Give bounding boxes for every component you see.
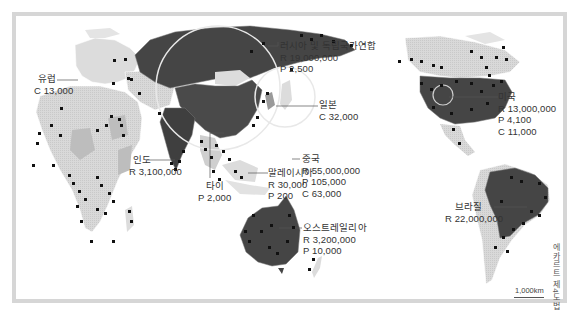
scale-bar xyxy=(514,297,544,298)
projection-note: 에카르트 제4도법 xyxy=(550,243,561,310)
label-japan: 일본 C 32,000 xyxy=(319,99,358,122)
label-europe: 유럽 C 13,000 xyxy=(34,73,73,96)
region-name: 말레이시아 xyxy=(248,167,314,179)
label-thailand: 타이 P 2,000 xyxy=(198,180,231,203)
australia-landmass xyxy=(240,196,300,266)
region-value: C 32,000 xyxy=(319,111,358,123)
region-name: 러시아 및 독립국가연합 xyxy=(280,40,376,52)
region-name: 브라질 xyxy=(445,201,503,213)
region-name: 일본 xyxy=(319,99,358,111)
region-name: 중국 xyxy=(302,153,360,165)
region-value: R 13,000,000 xyxy=(498,103,556,115)
region-value: C 11,000 xyxy=(498,126,556,138)
label-malaysia: 말레이시아 R 30,000 P 200 xyxy=(248,167,314,202)
region-name: 타이 xyxy=(198,180,231,192)
region-value: R 22,000,000 xyxy=(445,213,503,225)
region-value: P 2,500 xyxy=(280,63,376,75)
region-value: R 3,100,000 xyxy=(129,166,182,178)
region-name: 오스트레일리아 xyxy=(303,222,367,234)
region-value: P 4,100 xyxy=(498,114,556,126)
label-india: 인도 R 3,100,000 xyxy=(129,154,182,177)
region-name: 인도 xyxy=(129,154,182,166)
label-brazil: 브라질 R 22,000,000 xyxy=(445,201,503,224)
region-value: R 3,200,000 xyxy=(303,234,367,246)
region-value: R 30,000 xyxy=(248,179,314,191)
label-australia: 오스트레일리아 R 3,200,000 P 10,000 xyxy=(303,222,367,257)
region-name: 유럽 xyxy=(34,73,73,85)
region-value: P 200 xyxy=(248,190,314,202)
label-usa: 미국 R 13,000,000 P 4,100 C 11,000 xyxy=(498,91,556,137)
scale-label: 1,000km xyxy=(515,286,544,295)
label-russia: 러시아 및 독립국가연합 R 19,000,000 P 2,500 xyxy=(280,40,376,75)
region-value: C 13,000 xyxy=(34,85,73,97)
region-name: 미국 xyxy=(498,91,556,103)
region-value: P 10,000 xyxy=(303,245,367,257)
region-value: P 2,000 xyxy=(198,192,231,204)
region-value: R 19,000,000 xyxy=(280,52,376,64)
canada-landmass xyxy=(405,36,520,78)
